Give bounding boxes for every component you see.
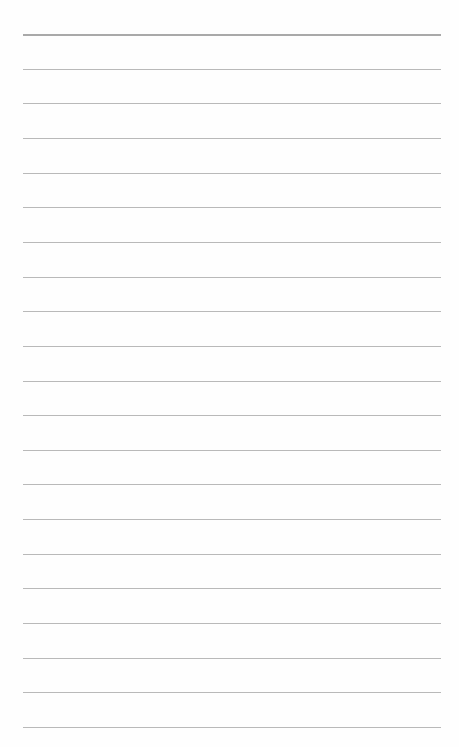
ruled-line — [23, 658, 441, 659]
ruled-line — [23, 381, 441, 382]
ruled-line — [23, 588, 441, 589]
ruled-line — [23, 138, 441, 139]
ruled-line — [23, 103, 441, 104]
ruled-line — [23, 69, 441, 70]
ruled-line — [23, 242, 441, 243]
ruled-line — [23, 346, 441, 347]
ruled-line — [23, 727, 441, 728]
ruled-line — [23, 692, 441, 693]
ruled-line — [23, 554, 441, 555]
ruled-line — [23, 277, 441, 278]
ruled-line — [23, 519, 441, 520]
ruled-line — [23, 207, 441, 208]
ruled-line — [23, 311, 441, 312]
ruled-line — [23, 484, 441, 485]
ruled-line — [23, 623, 441, 624]
ruled-line — [23, 34, 441, 36]
ruled-line — [23, 415, 441, 416]
ruled-line — [23, 173, 441, 174]
ruled-line — [23, 450, 441, 451]
ruled-paper-page — [0, 0, 459, 747]
